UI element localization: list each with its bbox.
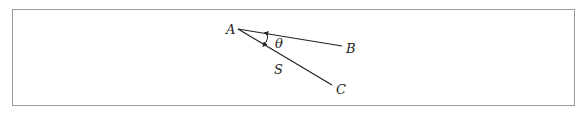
label-theta: θ [275, 36, 283, 51]
label-a: A [225, 22, 235, 37]
segment-ab [238, 29, 342, 46]
segment-ac [238, 29, 332, 85]
label-s: S [274, 62, 283, 77]
diagram-canvas: A B C θ S [0, 0, 588, 116]
label-b: B [345, 41, 356, 56]
label-c: C [336, 82, 346, 97]
angle-arc [264, 34, 268, 45]
